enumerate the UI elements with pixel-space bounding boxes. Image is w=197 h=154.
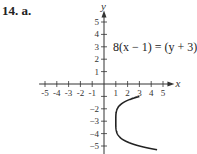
curve <box>116 96 157 149</box>
x-tick-label: -5 <box>41 88 49 98</box>
x-tick-label: -4 <box>53 88 61 98</box>
x-tick-label: -1 <box>88 88 96 98</box>
y-tick-label: 2 <box>95 54 100 64</box>
x-tick-label: 2 <box>125 88 130 98</box>
x-axis-arrow-icon <box>167 82 174 87</box>
y-tick-label: −4 <box>89 129 99 139</box>
y-axis-label: y <box>100 0 106 12</box>
x-tick-label: 4 <box>149 88 154 98</box>
y-tick-label: 5 <box>95 17 100 27</box>
equation-label: 8(x − 1) = (y + 3)⁴ <box>113 40 197 54</box>
x-tick-label: 5 <box>161 88 166 98</box>
y-tick-label: 1 <box>95 67 100 77</box>
x-tick-label: 1 <box>114 88 119 98</box>
x-tick-label: -2 <box>77 88 85 98</box>
y-tick-label: −5 <box>89 141 99 151</box>
graph: xy-5-4-3-2-112345−5−4−3−2123458(x − 1) =… <box>0 0 197 154</box>
y-tick-label: −3 <box>89 116 99 126</box>
y-tick-label: 4 <box>95 29 100 39</box>
x-tick-label: -3 <box>65 88 73 98</box>
y-tick-label: 3 <box>95 42 100 52</box>
y-tick-label: −2 <box>89 104 99 114</box>
x-axis-label: x <box>174 77 180 89</box>
